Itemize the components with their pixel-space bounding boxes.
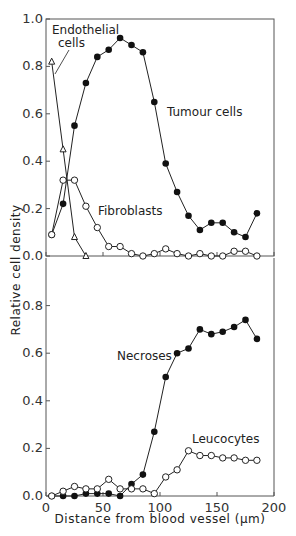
data-point-filled: [162, 374, 169, 381]
data-point-filled: [71, 122, 78, 129]
y-tick-label: 0.6: [22, 345, 43, 360]
annotation-tumour-cells: Tumour cells: [166, 105, 242, 119]
data-point-triangle: [72, 234, 78, 240]
data-point-open: [163, 474, 169, 480]
cell-density-chart: 0.00.20.40.60.81.0 Endothelial cells Tum…: [0, 0, 296, 536]
data-point-open: [128, 486, 134, 492]
y-tick-label: 0.0: [22, 488, 43, 503]
data-point-filled: [94, 54, 101, 61]
series-line: [52, 62, 86, 256]
top-series-group: [48, 35, 260, 260]
bottom-panel: 0.00.20.40.60.8 050100150200 Necroses Le…: [22, 258, 286, 515]
annotation-endothelial-leader: [55, 50, 69, 74]
data-point-filled: [254, 210, 261, 217]
y-tick-label: 0.0: [22, 248, 43, 263]
data-point-filled: [60, 201, 67, 208]
data-point-open: [242, 457, 248, 463]
data-point-filled: [128, 42, 135, 49]
data-point-filled: [208, 220, 215, 227]
y-tick-label: 0.4: [22, 393, 43, 408]
data-point-filled: [174, 350, 181, 357]
data-point-open: [174, 467, 180, 473]
data-point-open: [254, 457, 260, 463]
data-point-open: [220, 455, 226, 461]
data-point-filled: [151, 99, 158, 106]
data-point-open: [197, 452, 203, 458]
data-point-filled: [219, 328, 226, 335]
data-point-filled: [140, 471, 147, 478]
x-axis-title: Distance from blood vessel (µm): [55, 512, 266, 526]
data-point-open: [231, 248, 237, 254]
y-axis-title: Relative cell density: [9, 204, 23, 335]
data-point-filled: [208, 331, 215, 338]
top-panel: 0.00.20.40.60.81.0 Endothelial cells Tum…: [22, 11, 274, 263]
top-x-axis-ticks: [46, 252, 274, 256]
data-point-open: [94, 224, 100, 230]
series-leucocytes: [49, 448, 261, 500]
annotation-endothelial-line2: cells: [58, 36, 85, 50]
data-point-filled: [197, 227, 204, 234]
annotation-leucocytes: Leucocytes: [192, 432, 259, 446]
data-point-filled: [162, 160, 169, 167]
y-tick-label: 0.8: [22, 298, 43, 313]
y-tick-label: 1.0: [22, 11, 43, 26]
data-point-filled: [151, 428, 158, 435]
series-line: [52, 320, 257, 496]
annotation-endothelial-line1: Endothelial: [52, 23, 119, 37]
top-plot-frame: [46, 19, 274, 256]
data-point-filled: [83, 80, 90, 87]
data-point-open: [117, 486, 123, 492]
annotation-necroses: Necroses: [117, 349, 172, 363]
data-point-open: [106, 243, 112, 249]
x-tick-label: 0: [42, 500, 50, 515]
data-point-open: [49, 493, 55, 499]
data-point-open: [128, 250, 134, 256]
data-point-filled: [254, 336, 261, 343]
data-point-filled: [185, 212, 192, 219]
data-point-open: [140, 253, 146, 259]
data-point-open: [60, 177, 66, 183]
data-point-open: [231, 455, 237, 461]
data-point-open: [208, 253, 214, 259]
data-point-filled: [231, 229, 238, 236]
data-point-open: [71, 177, 77, 183]
data-point-open: [163, 246, 169, 252]
data-point-filled: [242, 317, 249, 324]
y-tick-label: 0.2: [22, 201, 43, 216]
data-point-open: [49, 231, 55, 237]
data-point-open: [117, 243, 123, 249]
data-point-open: [197, 250, 203, 256]
data-point-filled: [185, 345, 192, 352]
series-endothelial-cells: [49, 58, 89, 258]
data-point-filled: [219, 220, 226, 227]
data-point-filled: [117, 493, 124, 500]
y-tick-label: 0.4: [22, 153, 43, 168]
data-point-filled: [242, 234, 249, 241]
series-line: [52, 180, 257, 256]
data-point-open: [208, 452, 214, 458]
data-point-open: [174, 250, 180, 256]
y-tick-label: 0.8: [22, 58, 43, 73]
data-point-triangle: [60, 146, 66, 152]
data-point-filled: [105, 490, 112, 497]
data-point-open: [83, 203, 89, 209]
data-point-open: [83, 486, 89, 492]
data-point-open: [242, 248, 248, 254]
data-point-filled: [174, 189, 181, 196]
data-point-open: [185, 253, 191, 259]
data-point-open: [60, 488, 66, 494]
data-point-open: [254, 253, 260, 259]
data-point-open: [106, 476, 112, 482]
data-point-open: [151, 250, 157, 256]
data-point-open: [140, 486, 146, 492]
data-point-open: [185, 448, 191, 454]
data-point-open: [220, 253, 226, 259]
data-point-filled: [71, 493, 78, 500]
data-point-filled: [197, 326, 204, 333]
data-point-open: [94, 486, 100, 492]
y-tick-label: 0.6: [22, 106, 43, 121]
data-point-open: [71, 483, 77, 489]
bottom-series-group: [48, 317, 260, 500]
data-point-filled: [231, 324, 238, 331]
data-point-open: [151, 490, 157, 496]
